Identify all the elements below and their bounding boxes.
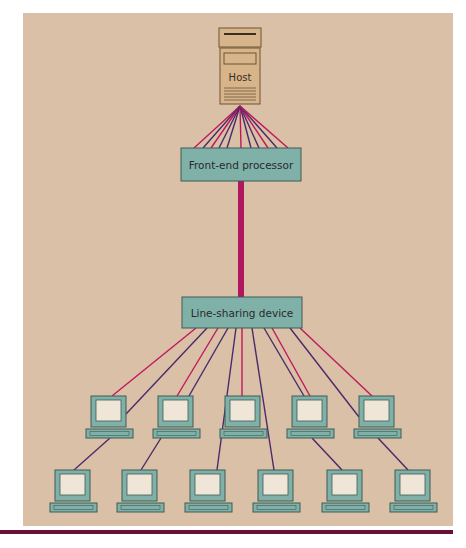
host-server: Host — [219, 28, 261, 104]
network-diagram: Host Front-end processor — [0, 0, 466, 548]
host-label: Host — [229, 72, 252, 83]
computer-terminal-icon — [50, 470, 97, 512]
front-end-processor: Front-end processor — [181, 148, 301, 181]
server-icon — [219, 28, 261, 104]
computer-terminal-icon — [220, 396, 267, 438]
computer-terminal-icon — [253, 470, 300, 512]
computer-terminal-icon — [390, 470, 437, 512]
line-sharing-device-label: Line-sharing device — [191, 307, 294, 319]
front-end-processor-label: Front-end processor — [189, 159, 294, 171]
bottom-divider-bar — [0, 530, 453, 534]
computer-terminal-icon — [86, 396, 133, 438]
computer-terminal-icon — [287, 396, 334, 438]
computer-terminal-icon — [354, 396, 401, 438]
computer-terminal-icon — [153, 396, 200, 438]
trunk-line — [238, 181, 244, 297]
line-sharing-device: Line-sharing device — [182, 297, 302, 328]
computer-terminal-icon — [322, 470, 369, 512]
computer-terminal-icon — [185, 470, 232, 512]
computer-terminal-icon — [117, 470, 164, 512]
